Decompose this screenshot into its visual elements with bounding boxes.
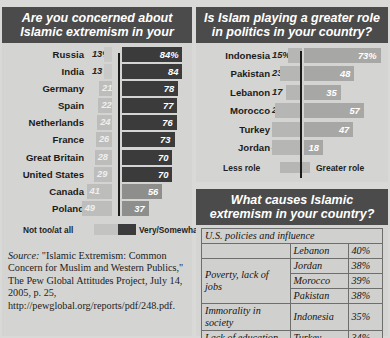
panel3-title: What causes Islamic extremism in your co… [196,189,388,225]
panel2-zero-axis [300,51,302,178]
table-row: Great Britain2870 [4,150,188,165]
table-row: India1384 [4,64,188,79]
table-row: United States2970 [4,167,188,182]
percent-cell: 34% [348,331,382,338]
table-row: Pakistan2348 [198,66,384,81]
bar-right: 73 [122,132,175,147]
bar-left: 26 [96,132,112,147]
source-citation: Source: "Islamic Extremism: Common Conce… [8,250,188,312]
panel-islam-politics: Is Islam playing a greater role in polit… [196,7,388,182]
percent-cell: 38% [348,259,382,274]
table-row: U.S. policies and influence [202,229,383,244]
causes-table: U.S. policies and influenceLebanon40%Pov… [201,228,383,338]
percent-cell: 35% [348,304,382,331]
panel1-title: Are you concerned about Islamic extremis… [2,7,192,43]
country-cell: Morocco [290,274,348,289]
table-row: Spain2277 [4,98,188,113]
panel1-zero-axis [118,53,120,216]
legend-label-not-too: Not too/at all [23,225,73,235]
country-label: Morocco [198,103,270,118]
panel2-legend: Less role Greater role [196,161,388,175]
country-cell: Indonesia [290,304,348,331]
legend-label-greater-role: Greater role [316,163,364,173]
cause-cell [202,244,291,259]
bar-left: 22 [98,98,112,113]
country-label: Pakistan [198,66,270,81]
legend-swatch-gray [280,162,310,173]
legend-swatch-light [94,224,118,235]
bar-left [104,64,112,79]
bar-right: 57 [304,103,364,118]
bar-right: 73% [304,48,381,63]
bar-left: 24 [97,115,112,130]
bar-right: 35 [304,85,341,100]
bar-left: 28 [95,150,112,165]
panel2-title: Is Islam playing a greater role in polit… [196,7,388,43]
percent-cell: 39% [348,274,382,289]
table-row: Immorality in societyIndonesia35% [202,304,383,331]
bar-left [272,140,302,155]
table-row: Netherlands2476 [4,115,188,130]
panel1-bar-rows: Russia13%84%India1384Germany2178Spain227… [2,43,192,216]
infographic-page: Are you concerned about Islamic extremis… [0,0,390,338]
bar-right: 56 [122,184,162,199]
table-row: Lack of educationTurkey34% [202,331,383,338]
country-label: Indonesia [198,48,270,63]
country-label: Russia [4,47,84,62]
bar-left [272,122,302,137]
country-label: Germany [4,81,84,96]
country-cell: Pakistan [290,289,348,304]
legend-label-less-role: Less role [223,163,260,173]
percent-cell: 38% [348,289,382,304]
table-row: Poland4937 [4,201,188,216]
country-label: Turkey [198,122,270,137]
country-label: France [4,132,84,147]
bar-left [104,47,112,62]
table-row: Russia13%84% [4,47,188,62]
country-cell: Lebanon [290,244,348,259]
bar-right: 84 [122,64,182,79]
table-row: Canada4156 [4,184,188,199]
cause-cell: Lack of education [202,331,291,338]
bar-left: 49 [82,201,112,216]
bar-left: 21 [99,81,112,96]
bar-right: 48 [304,66,354,81]
bar-left [280,66,302,81]
cause-cell: Poverty, lack of jobs [202,259,291,304]
country-label: Poland [4,201,84,216]
bar-left: 29 [94,167,112,182]
country-label: Spain [4,98,84,113]
bar-right: 70 [122,150,172,165]
table-row: Poverty, lack of jobsJordan38% [202,259,383,274]
legend-swatch-dark [118,224,136,235]
country-label: United States [4,167,84,182]
country-label: India [4,64,84,79]
table-row: Morocco2857 [198,103,384,118]
country-label: Canada [4,184,84,199]
bar-right: 37 [122,201,149,216]
bar-right: 84% [122,47,182,62]
country-label: Great Britain [4,150,84,165]
legend-label-very-somewhat: Very/Somewhat [139,225,200,235]
table-row: Germany2178 [4,81,188,96]
country-cell: Turkey [290,331,348,338]
cause-cell: U.S. policies and influence [202,229,383,244]
table-row: Jordan4318 [198,140,384,155]
percent-cell: 40% [348,244,382,259]
panel-causes-extremism: What causes Islamic extremism in your co… [196,189,388,336]
country-label: Lebanon [198,85,270,100]
table-row: Indonesia15%73% [198,48,384,63]
panel2-bar-rows: Indonesia15%73%Pakistan2348Lebanon1735Mo… [196,43,388,155]
cause-cell: Immorality in society [202,304,291,331]
country-label: Jordan [198,140,270,155]
table-row: Lebanon40% [202,244,383,259]
country-label: Netherlands [4,115,84,130]
table-row: Lebanon1735 [198,85,384,100]
bar-right: 47 [304,122,353,137]
bar-right: 70 [122,167,172,182]
country-cell: Jordan [290,259,348,274]
value-label-left: 17 [272,85,282,100]
value-label-left: 13 [92,64,102,79]
source-label: Source: [8,250,39,261]
bar-left [275,103,302,118]
